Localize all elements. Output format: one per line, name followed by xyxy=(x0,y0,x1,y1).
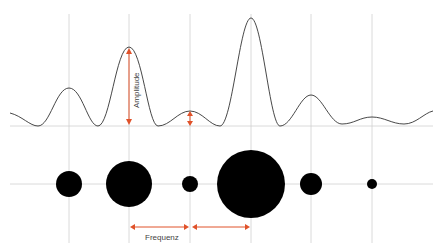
dot xyxy=(300,173,322,195)
dot xyxy=(367,179,377,189)
grid-lines xyxy=(10,14,433,243)
dot xyxy=(106,161,152,207)
dot xyxy=(217,150,285,218)
diagram-canvas: Amplitude Frequenz xyxy=(0,0,444,247)
dot xyxy=(56,171,82,197)
frequency-label: Frequenz xyxy=(145,233,179,242)
amplitude-label: Amplitude xyxy=(132,72,141,108)
waveform xyxy=(10,18,433,126)
dot xyxy=(182,176,198,192)
amplitude-frequency-diagram: Amplitude Frequenz xyxy=(0,0,444,247)
